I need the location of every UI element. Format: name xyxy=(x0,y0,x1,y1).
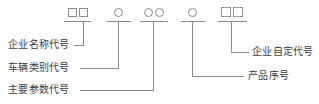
enterprise-custom-symbols xyxy=(221,7,243,17)
product-serial-symbols xyxy=(188,8,197,17)
square-glyph xyxy=(68,8,77,17)
circle-glyph xyxy=(114,8,123,17)
label-vehicle-category-code: 车辆类别代号 xyxy=(8,62,70,74)
leader-enterprise-custom xyxy=(232,22,249,53)
label-product-serial-number: 产品序号 xyxy=(248,70,289,82)
label-enterprise-custom-code: 企业自定代号 xyxy=(252,46,314,58)
leader-product-serial xyxy=(193,22,244,77)
enterprise-name-symbols xyxy=(68,8,88,17)
label-main-parameter-code: 主要参数代号 xyxy=(8,84,70,96)
leader-vehicle-category xyxy=(80,22,119,69)
main-parameter-symbols xyxy=(144,8,164,17)
label-enterprise-name-code: 企业名称代号 xyxy=(8,39,70,51)
leader-enterprise-name xyxy=(74,22,84,46)
vehicle-category-symbols xyxy=(114,8,123,17)
circle-glyph xyxy=(155,8,164,17)
circle-glyph xyxy=(144,8,153,17)
leader-main-parameter xyxy=(80,22,154,91)
dashed-square-glyph xyxy=(221,7,231,17)
square-glyph xyxy=(79,8,88,17)
code-structure-diagram: 企业名称代号 车辆类别代号 主要参数代号 企业自定代号 产品序号 xyxy=(0,0,319,104)
dashed-square-glyph xyxy=(233,7,243,17)
circle-glyph xyxy=(188,8,197,17)
